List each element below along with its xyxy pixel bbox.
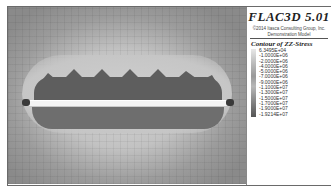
divider <box>250 38 328 39</box>
model-subtitle: Demonstration Model <box>247 32 331 37</box>
compression-zone-bottom <box>32 107 224 129</box>
legend-values: 6.3495E+04 -1.0000E+06 -2.0000E+06 -4.00… <box>259 48 288 117</box>
copyright-text: ©2014 Itasca Consulting Group, Inc. <box>247 26 331 31</box>
structure-beam <box>28 100 228 106</box>
compression-zone-top <box>34 77 222 101</box>
beam-end-left <box>22 99 30 106</box>
app-title: FLAC3D 5.01 <box>247 9 331 25</box>
color-scale-bar <box>251 49 256 117</box>
beam-end-right <box>226 99 234 106</box>
legend-value: -1.9214E+07 <box>259 112 288 117</box>
contour-plot <box>8 7 246 184</box>
legend-panel: FLAC3D 5.01 ©2014 Itasca Consulting Grou… <box>246 7 331 185</box>
